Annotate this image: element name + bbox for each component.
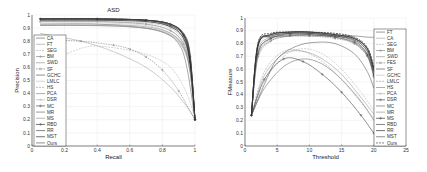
legend-label: SWD — [387, 54, 398, 59]
series-fes — [251, 35, 373, 115]
series-ft — [251, 59, 373, 120]
x-tick-label: 0 — [244, 147, 247, 153]
legend-label: BM — [387, 48, 394, 53]
series-sf — [251, 42, 373, 115]
legend-label: Ours — [387, 141, 398, 146]
legend-label: RBD — [387, 122, 397, 127]
series-dsr — [251, 34, 373, 115]
series-hs — [251, 33, 373, 115]
fmeasure-threshold-chart: 00.10.20.30.40.50.60.70.80.910510152025T… — [0, 0, 427, 172]
legend-label: SF — [387, 67, 393, 72]
figure: 00.10.20.30.40.50.60.70.80.9100.20.40.60… — [0, 0, 427, 172]
series-mst — [251, 36, 373, 115]
y-tick-label: 0.6 — [236, 66, 243, 72]
legend: FTCASEGBMSWDFESSFGCHCLMLCHSPCADSRMCMRMSR… — [374, 29, 406, 146]
y-tick-label: 0.2 — [236, 117, 243, 123]
x-tick-label: 20 — [371, 147, 377, 153]
legend-label: PCA — [387, 91, 397, 96]
y-tick-label: 0.1 — [236, 130, 243, 136]
series-gchc — [251, 33, 373, 115]
series-bm — [251, 33, 373, 115]
x-tick-label: 15 — [339, 147, 345, 153]
y-tick-label: 0.5 — [236, 79, 243, 85]
legend-label: GCHC — [387, 73, 401, 78]
legend-label: MR — [387, 110, 395, 115]
x-tick-label: 25 — [403, 147, 409, 153]
legend-label: MST — [387, 134, 397, 139]
y-axis-label: FMeasure — [227, 68, 233, 96]
x-axis-label: Threshold — [312, 154, 339, 160]
y-tick-label: 0.4 — [236, 91, 243, 97]
legend-label: CA — [387, 36, 394, 41]
y-tick-label: 0.9 — [236, 27, 243, 33]
legend-label: FES — [387, 60, 396, 65]
legend-label: MC — [387, 104, 395, 109]
y-tick-label: 1 — [240, 15, 243, 21]
legend-label: SEG — [387, 42, 397, 47]
legend-label: FT — [387, 30, 393, 35]
x-tick-label: 10 — [307, 147, 313, 153]
y-tick-label: 0.3 — [236, 104, 243, 110]
legend-label: LMLC — [387, 79, 400, 84]
series-pca — [251, 35, 373, 116]
legend-label: DSR — [387, 97, 397, 102]
series-rr — [251, 33, 373, 115]
legend-label: MS — [387, 116, 394, 121]
y-tick-label: 0.7 — [236, 53, 243, 59]
x-tick-label: 5 — [276, 147, 279, 153]
series-ca — [251, 35, 373, 116]
legend-label: HS — [387, 85, 393, 90]
y-tick-label: 0.8 — [236, 40, 243, 46]
legend-label: RR — [387, 128, 394, 133]
